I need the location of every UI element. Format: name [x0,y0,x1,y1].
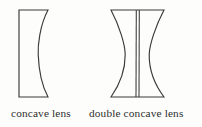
concave-lens-shape [19,10,48,97]
concave-lens-outline [19,10,48,97]
lens-diagram-canvas [0,0,202,127]
double-concave-lens-outline [111,10,164,97]
double-concave-lens-shape [111,10,164,97]
lens-figure: concave lens double concave lens [0,0,202,127]
